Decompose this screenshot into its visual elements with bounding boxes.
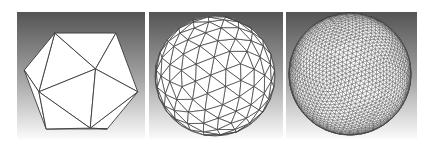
sphere-mesh	[289, 13, 411, 135]
panel-high-res-sphere	[286, 12, 417, 139]
medium-res-sphere-render	[149, 12, 283, 139]
panel-medium-res-sphere	[149, 12, 283, 139]
low-res-sphere-render	[17, 12, 145, 139]
high-res-sphere-render	[286, 12, 417, 139]
panel-low-res-sphere	[17, 12, 145, 139]
sphere-mesh	[155, 16, 275, 136]
